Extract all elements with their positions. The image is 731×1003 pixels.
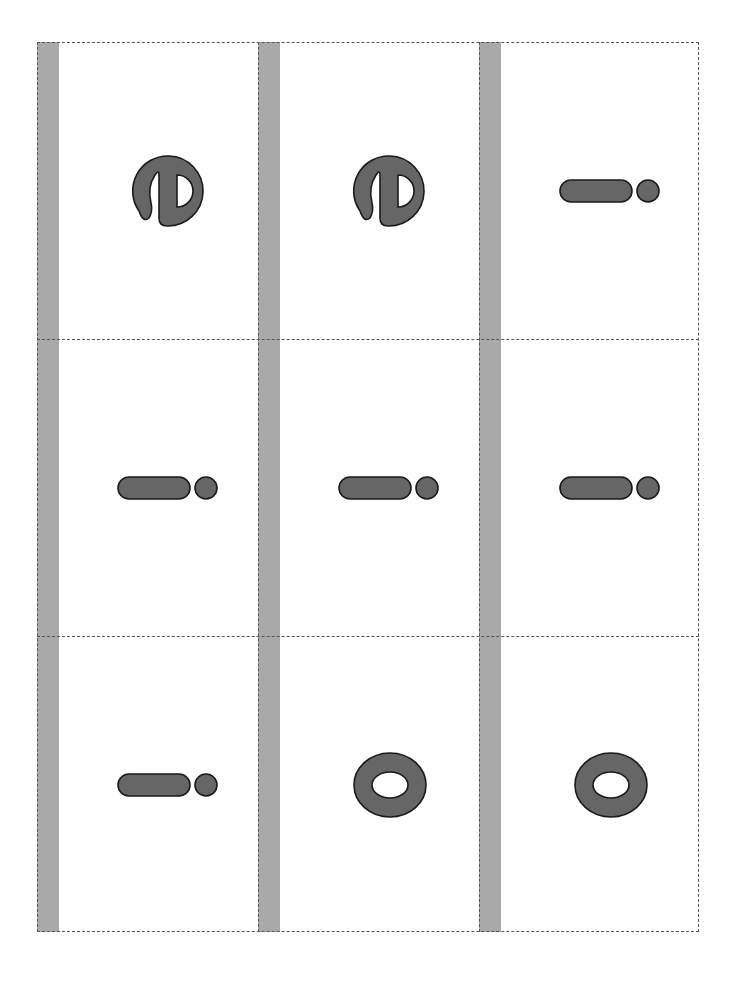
o-icon xyxy=(352,751,428,819)
e-rotated-icon xyxy=(129,151,209,231)
letter-card-o xyxy=(258,636,479,933)
letter-card-o xyxy=(479,636,700,933)
letter-card-e xyxy=(37,42,258,339)
letter-card-e xyxy=(258,42,479,339)
letter-card-i xyxy=(479,339,700,636)
i-rotated-icon xyxy=(559,178,663,204)
i-rotated-icon xyxy=(117,772,221,798)
i-rotated-icon xyxy=(559,475,663,501)
letter-card-i xyxy=(37,636,258,933)
i-rotated-icon xyxy=(117,475,221,501)
o-icon xyxy=(573,751,649,819)
letter-card-i xyxy=(479,42,700,339)
letter-card-i xyxy=(37,339,258,636)
e-rotated-icon xyxy=(350,151,430,231)
i-rotated-icon xyxy=(338,475,442,501)
letter-card-i xyxy=(258,339,479,636)
card-sheet xyxy=(37,42,699,932)
